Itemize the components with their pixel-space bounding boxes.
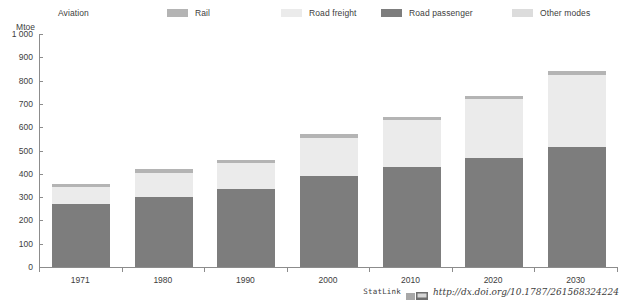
y-tick-label: 1 000	[12, 29, 33, 39]
y-axis: Mtoe 01002003004005006007008009001 000	[0, 22, 39, 277]
legend-item-aviation: Aviation	[30, 4, 89, 22]
legend-swatch-icon	[381, 9, 402, 17]
bar-group-1990[interactable]	[217, 34, 275, 267]
y-tick-label: 900	[19, 52, 33, 62]
legend-item-label: Rail	[195, 8, 210, 18]
plot-area	[39, 34, 618, 268]
bar-group-2010[interactable]	[383, 34, 441, 267]
bar-segment-road-passenger[interactable]	[217, 189, 275, 267]
y-tick-label: 700	[19, 99, 33, 109]
statlink-footer: StatLink http://dx.doi.org/10.1787/26156…	[363, 285, 619, 298]
legend-item-label: Other modes	[540, 8, 590, 18]
bar-group-2020[interactable]	[465, 34, 523, 267]
bar-segment-road-freight[interactable]	[383, 120, 441, 167]
y-tick-label: 100	[19, 239, 33, 249]
statlink-label: StatLink	[363, 287, 401, 296]
legend-swatch-icon	[30, 9, 51, 17]
y-tick-label: 400	[19, 169, 33, 179]
bar-segment-road-passenger[interactable]	[52, 204, 110, 267]
bar-group-2000[interactable]	[300, 34, 358, 267]
legend-item-other-modes: Other modes	[512, 4, 590, 22]
bar-segment-road-passenger[interactable]	[135, 197, 193, 267]
y-tick-label: 500	[19, 146, 33, 156]
legend-item-rail: Rail	[167, 4, 210, 22]
legend-item-road-passenger: Road passenger	[381, 4, 473, 22]
legend-swatch-icon	[167, 9, 188, 17]
x-tick-mark	[287, 268, 288, 272]
x-tick-mark	[534, 268, 535, 272]
legend-swatch-icon	[281, 9, 302, 17]
legend-item-label: Aviation	[58, 8, 89, 18]
x-tick-mark	[204, 268, 205, 272]
bar-segment-road-passenger[interactable]	[300, 176, 358, 267]
x-tick-mark	[452, 268, 453, 272]
bar-segment-road-freight[interactable]	[300, 138, 358, 176]
x-tick-mark	[122, 268, 123, 272]
x-tick-label-1980: 1980	[134, 268, 192, 288]
x-tick-mark	[617, 268, 618, 272]
bar-segment-road-freight[interactable]	[465, 99, 523, 157]
statlink-url[interactable]: http://dx.doi.org/10.1787/261568324224	[433, 287, 619, 297]
bar-segment-road-freight[interactable]	[52, 187, 110, 204]
bar-segment-road-passenger[interactable]	[465, 158, 523, 268]
legend-item-label: Road freight	[309, 8, 357, 18]
bar-group-1980[interactable]	[135, 34, 193, 267]
y-tick-label: 0	[28, 262, 33, 272]
y-tick-label: 600	[19, 122, 33, 132]
bar-group-2030[interactable]	[548, 34, 606, 267]
bar-segment-road-freight[interactable]	[217, 163, 275, 189]
statlink-badge-icon	[406, 287, 428, 296]
bar-segment-road-passenger[interactable]	[383, 167, 441, 267]
bar-segment-road-freight[interactable]	[548, 75, 606, 147]
x-tick-mark	[369, 268, 370, 272]
y-tick-label: 300	[19, 192, 33, 202]
bar-segment-road-passenger[interactable]	[548, 147, 606, 267]
legend-item-road-freight: Road freight	[281, 4, 357, 22]
x-tick-mark	[39, 268, 40, 272]
legend-item-label: Road passenger	[409, 8, 473, 18]
bar-segment-road-freight[interactable]	[135, 173, 193, 197]
x-tick-label-1971: 1971	[51, 268, 109, 288]
y-tick-label: 800	[19, 76, 33, 86]
y-tick-label: 200	[19, 215, 33, 225]
bar-group-1971[interactable]	[52, 34, 110, 267]
x-tick-label-2000: 2000	[299, 268, 357, 288]
x-tick-label-1990: 1990	[216, 268, 274, 288]
chart-legend: AviationRailRoad freightRoad passengerOt…	[0, 4, 622, 22]
legend-swatch-icon	[512, 9, 533, 17]
bars-container	[40, 34, 618, 267]
